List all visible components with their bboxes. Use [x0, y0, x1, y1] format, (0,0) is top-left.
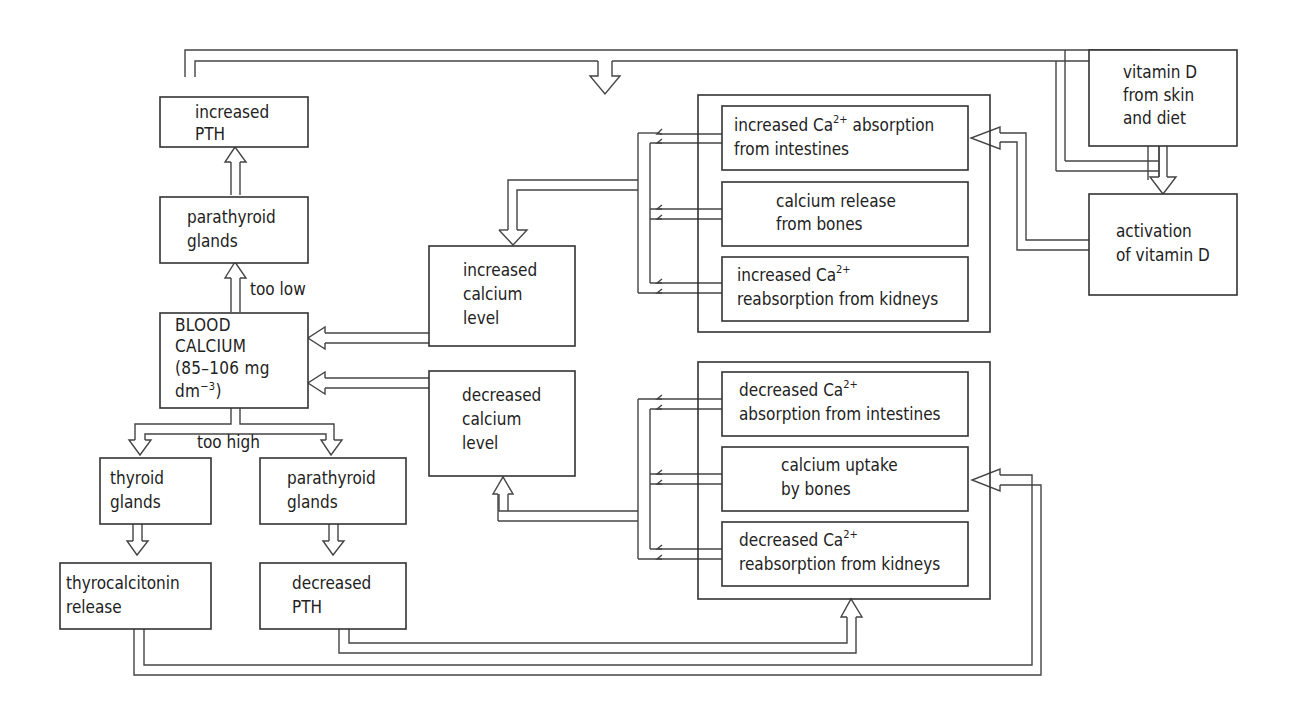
node-parathyroid-glands-top: parathyroid glands	[160, 197, 308, 263]
calcium-regulation-diagram: increased PTH parathyroid glands too low…	[0, 0, 1303, 717]
node-label-part: decreased Ca	[739, 380, 843, 400]
node-thyroid-glands: thyroid glands	[100, 458, 211, 524]
superscript: 2+	[843, 378, 858, 391]
node-increased-pth: increased PTH	[160, 97, 308, 147]
node-label: parathyroid	[287, 468, 376, 488]
node-label-part: increased Ca	[734, 115, 833, 135]
node-label: reabsorption from kidneys	[739, 554, 940, 574]
superscript: 2+	[833, 113, 848, 126]
node-label: from skin	[1123, 85, 1194, 105]
node-blood-calcium: BLOOD CALCIUM (85–106 mg dm−3)	[160, 313, 308, 408]
node-label: (85–106 mg	[175, 358, 270, 378]
node-label: calcium	[462, 409, 521, 429]
node-label: glands	[110, 492, 161, 512]
node-label: release	[66, 597, 122, 617]
node-label: of vitamin D	[1116, 245, 1210, 265]
node-label: calcium uptake	[781, 455, 898, 475]
node-label: decreased Ca2+	[739, 378, 858, 400]
node-label: by bones	[781, 479, 851, 499]
superscript: 2+	[836, 263, 851, 276]
node-vitamin-d-source: vitamin D from skin and diet	[1089, 50, 1237, 146]
node-label: level	[462, 433, 498, 453]
node-label: calcium release	[776, 191, 896, 211]
superscript: 2+	[843, 528, 858, 541]
node-label: PTH	[292, 597, 322, 617]
node-label: from intestines	[734, 139, 849, 159]
node-decreased-pth: decreased PTH	[260, 563, 406, 629]
node-label: reabsorption from kidneys	[737, 289, 938, 309]
arrow-parathyroid-to-pth	[225, 147, 246, 195]
node-thyrocalcitonin-release: thyrocalcitonin release	[60, 563, 211, 629]
node-label-part: dm	[175, 381, 200, 401]
node-decreased-absorption-intestines: decreased Ca2+ absorption from intestine…	[722, 372, 968, 436]
node-label: increased	[463, 260, 537, 280]
node-parathyroid-glands-bottom: parathyroid glands	[260, 458, 406, 524]
node-label-part: )	[215, 381, 221, 401]
node-decreased-reabsorption-kidneys: decreased Ca2+ reabsorption from kidneys	[722, 522, 968, 586]
node-label: decreased	[462, 385, 541, 405]
node-label: activation	[1116, 221, 1192, 241]
node-label: absorption from intestines	[739, 404, 941, 424]
arrow-increased-level-to-blood	[308, 327, 429, 349]
node-label: and diet	[1123, 108, 1186, 128]
node-increased-calcium-level: increased calcium level	[429, 246, 575, 346]
node-increased-absorption-intestines: increased Ca2+ absorption from intestine…	[722, 106, 968, 170]
too-low-label: too low	[250, 279, 306, 299]
arrow-blood-to-parathyroid-top	[225, 262, 246, 312]
node-label: increased	[195, 102, 269, 122]
arrow-decreased-pth-to-decrease-group	[339, 599, 862, 653]
node-label: thyroid	[110, 468, 164, 488]
node-decreased-calcium-level: decreased calcium level	[429, 371, 575, 476]
arrow-thyroid-to-thyrocalcitonin	[127, 524, 148, 555]
arrow-parathyroid-to-decreased-pth	[323, 524, 344, 555]
node-label: decreased	[292, 573, 371, 593]
node-label-part: decreased Ca	[739, 530, 843, 550]
node-label: PTH	[195, 124, 225, 144]
node-increased-reabsorption-kidneys: increased Ca2+ reabsorption from kidneys	[722, 257, 968, 321]
arrow-activation-to-absorption	[971, 127, 1089, 250]
node-label: level	[463, 308, 499, 328]
node-label: thyrocalcitonin	[66, 573, 180, 593]
node-label-part: increased Ca	[737, 265, 836, 285]
node-label: vitamin D	[1123, 62, 1197, 82]
node-label: calcium	[463, 284, 522, 304]
node-label: BLOOD	[175, 315, 231, 335]
node-label: parathyroid	[187, 207, 276, 227]
node-label: dm−3)	[175, 380, 222, 401]
arrow-decreased-level-to-blood	[308, 372, 429, 394]
node-label: decreased Ca2+	[739, 528, 858, 550]
node-label: from bones	[776, 214, 863, 234]
node-label-part: absorption	[848, 115, 935, 135]
node-label: glands	[287, 492, 338, 512]
superscript: −3	[200, 380, 215, 393]
node-label: CALCIUM	[175, 336, 246, 356]
node-label: glands	[187, 231, 238, 251]
node-activation-vitamin-d: activation of vitamin D	[1089, 194, 1237, 295]
node-label: increased Ca2+	[737, 263, 851, 285]
node-calcium-uptake-bones: calcium uptake by bones	[722, 447, 968, 511]
node-calcium-release-bones: calcium release from bones	[722, 182, 968, 246]
too-high-label: too high	[197, 432, 260, 452]
arrow-pth-to-increase-group	[185, 50, 1159, 180]
